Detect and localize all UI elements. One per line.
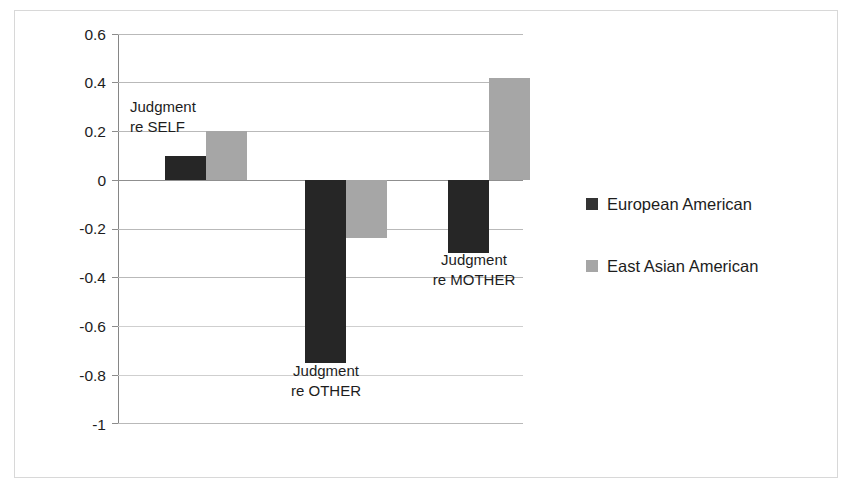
y-tick xyxy=(112,34,118,35)
bar-european-american-self xyxy=(165,156,206,180)
legend-label: East Asian American xyxy=(607,257,758,276)
legend-label: European American xyxy=(607,195,752,214)
bar-european-american-other xyxy=(305,180,346,363)
category-label-mother: Judgment re MOTHER xyxy=(414,250,534,291)
y-tick-label: -0.4 xyxy=(79,270,106,286)
y-tick-label: -0.8 xyxy=(79,368,106,384)
chart-figure: 0.6 0.4 0.2 0 -0.2 -0.4 -0.6 -0.8 -1 xyxy=(14,10,838,478)
bar-east-asian-american-self xyxy=(206,131,247,180)
bar-european-american-mother xyxy=(448,180,489,253)
y-tick-label: 0.2 xyxy=(84,124,106,140)
y-tick-label: -0.2 xyxy=(79,221,106,237)
bar-east-asian-american-other xyxy=(346,180,387,238)
y-axis-tick-labels: 0.6 0.4 0.2 0 -0.2 -0.4 -0.6 -0.8 -1 xyxy=(56,34,106,424)
category-label-line: Judgment xyxy=(130,97,280,117)
legend-item-east-asian-american[interactable]: East Asian American xyxy=(586,235,826,297)
category-label-other: Judgment re OTHER xyxy=(271,361,381,402)
category-label-line: re MOTHER xyxy=(414,270,534,290)
y-tick xyxy=(112,180,118,181)
legend-swatch-icon xyxy=(586,198,598,210)
chart-legend: European American East Asian American xyxy=(586,173,826,297)
gridline--1 xyxy=(118,423,523,424)
y-tick xyxy=(112,326,118,327)
y-tick-label: 0.4 xyxy=(84,75,106,91)
y-tick xyxy=(112,375,118,376)
y-tick xyxy=(112,82,118,83)
gridline-0.4 xyxy=(118,82,523,83)
y-tick xyxy=(112,131,118,132)
category-label-line: Judgment xyxy=(414,250,534,270)
y-tick xyxy=(112,229,118,230)
y-tick-label: -0.6 xyxy=(79,319,106,335)
category-label-self: Judgment re SELF xyxy=(130,97,280,138)
y-tick xyxy=(112,423,118,424)
legend-swatch-icon xyxy=(586,260,598,272)
y-tick-label: 0.6 xyxy=(84,27,106,43)
y-tick-label: -1 xyxy=(92,417,106,433)
category-label-line: Judgment xyxy=(271,361,381,381)
y-tick-label: 0 xyxy=(97,173,106,189)
y-tick xyxy=(112,277,118,278)
category-label-line: re OTHER xyxy=(271,381,381,401)
legend-item-european-american[interactable]: European American xyxy=(586,173,826,235)
gridline-0.6 xyxy=(118,34,523,35)
plot-area: Judgment re SELF Judgment re OTHER Judgm… xyxy=(118,34,523,424)
bar-east-asian-american-mother xyxy=(489,78,530,180)
category-label-line: re SELF xyxy=(130,117,280,137)
